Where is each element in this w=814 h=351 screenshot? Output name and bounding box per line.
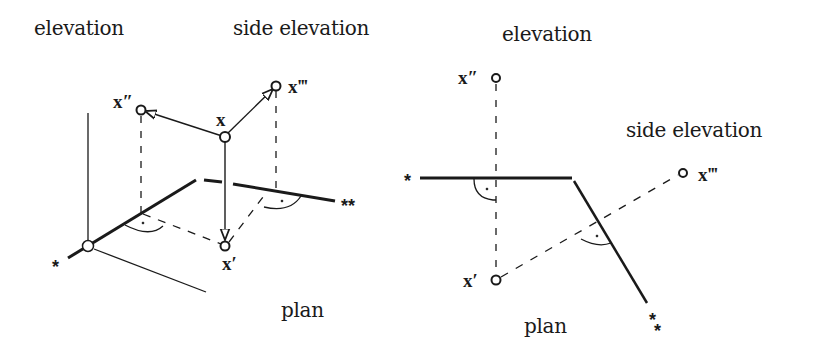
right-angle-marker-1 bbox=[125, 225, 163, 232]
label-x-double-right: x″ bbox=[458, 68, 478, 87]
label-side-elevation-right: side elevation bbox=[626, 120, 762, 140]
label-elevation-left: elevation bbox=[34, 18, 124, 38]
point-x-single-right bbox=[492, 276, 501, 285]
point-x-single bbox=[221, 242, 230, 251]
label-x-single-right: x′ bbox=[463, 271, 478, 290]
label-elevation-right: elevation bbox=[502, 24, 592, 44]
arrow-x-to-x-triple bbox=[228, 89, 273, 133]
right-angle-marker-3 bbox=[474, 179, 496, 200]
ground-line-double-star bbox=[233, 184, 335, 201]
arrow-x-to-x-double bbox=[145, 111, 222, 136]
point-x bbox=[220, 132, 230, 142]
label-star-right-2b: * bbox=[654, 322, 661, 340]
origin-point bbox=[83, 241, 94, 252]
right-figure bbox=[420, 74, 687, 303]
point-x-double bbox=[137, 106, 146, 115]
point-x-triple-right bbox=[679, 169, 687, 177]
ground-line-hidden bbox=[204, 180, 222, 182]
point-x-triple bbox=[272, 82, 281, 91]
label-plan-right: plan bbox=[524, 316, 567, 336]
label-x-single-left: x′ bbox=[222, 254, 237, 273]
label-plan-left: plan bbox=[281, 300, 324, 320]
label-x-double-left: x″ bbox=[113, 92, 133, 111]
projection-plan-left bbox=[143, 214, 221, 244]
plan-edge-line bbox=[94, 249, 206, 292]
right-angle-marker-4 bbox=[581, 239, 611, 245]
label-star-left: * bbox=[52, 258, 59, 276]
left-figure bbox=[68, 82, 335, 293]
label-double-star-left: ** bbox=[341, 197, 355, 215]
projection-x-single-to-x-triple bbox=[501, 175, 678, 277]
label-x-triple-right: x‴ bbox=[698, 165, 718, 184]
label-star-right: * bbox=[404, 172, 411, 190]
label-side-elevation-left: side elevation bbox=[233, 18, 369, 38]
projection-plan-right bbox=[229, 193, 266, 242]
point-x-double-right bbox=[492, 74, 500, 82]
label-x-triple-left: x‴ bbox=[288, 77, 308, 96]
label-x: x bbox=[216, 110, 226, 129]
